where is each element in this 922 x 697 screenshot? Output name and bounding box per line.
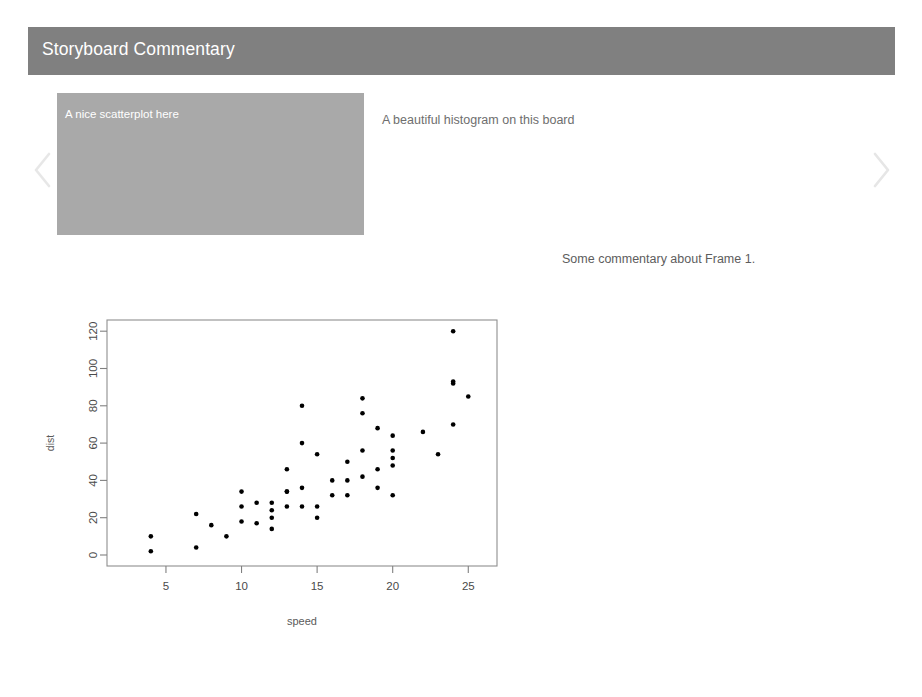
x-axis-label: speed [287, 615, 317, 627]
svg-text:40: 40 [87, 474, 99, 487]
frame-tab-1[interactable]: A beautiful histogram on this board [382, 113, 574, 127]
scatter-points [149, 329, 471, 554]
frame-tab-0-label: A nice scatterplot here [65, 108, 179, 120]
x-axis-tick-labels: 510152025 [163, 580, 475, 592]
storyboard-header: Storyboard Commentary [28, 27, 895, 75]
y-axis-ticks [100, 331, 107, 555]
svg-text:15: 15 [311, 580, 324, 592]
svg-text:80: 80 [87, 399, 99, 412]
svg-text:60: 60 [87, 437, 99, 450]
svg-text:100: 100 [87, 359, 99, 378]
frame-tab-1-label: A beautiful histogram on this board [382, 113, 574, 127]
svg-text:10: 10 [235, 580, 248, 592]
carousel-prev-button[interactable] [26, 147, 60, 193]
y-axis-label: dist [44, 435, 56, 451]
svg-text:20: 20 [87, 511, 99, 524]
svg-text:5: 5 [163, 580, 169, 592]
frame-tab-list: A nice scatterplot here A beautiful hist… [57, 93, 895, 238]
scatterplot-svg: 020406080100120 510152025 speed dist [40, 300, 540, 645]
svg-text:120: 120 [87, 322, 99, 341]
page-footer-artifact [0, 662, 922, 680]
frame-commentary-text: Some commentary about Frame 1. [562, 252, 755, 266]
scatterplot-figure: 020406080100120 510152025 speed dist [40, 300, 540, 645]
svg-text:0: 0 [87, 552, 99, 558]
y-axis-tick-labels: 020406080100120 [87, 322, 99, 559]
chevron-left-icon [32, 150, 54, 190]
svg-text:25: 25 [462, 580, 475, 592]
x-axis-ticks [166, 566, 468, 573]
page-title: Storyboard Commentary [42, 39, 235, 60]
frame-tab-0[interactable]: A nice scatterplot here [57, 93, 364, 235]
svg-text:20: 20 [386, 580, 399, 592]
